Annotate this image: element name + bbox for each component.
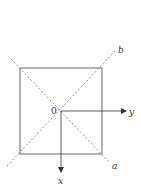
square-diagram: 0 b a y x xyxy=(0,0,141,193)
origin-label: 0 xyxy=(51,106,57,116)
diagonal-b-label: b xyxy=(118,45,124,55)
x-axis-label: x xyxy=(58,176,63,186)
y-axis-label: y xyxy=(128,107,135,117)
diagonal-a-label: a xyxy=(112,161,117,171)
